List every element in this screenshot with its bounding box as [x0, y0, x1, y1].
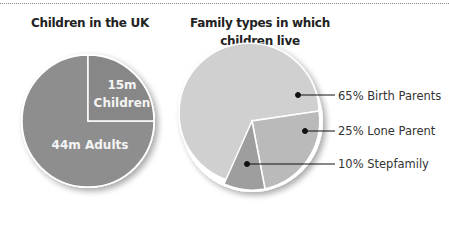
legend-birth-parents: 65% Birth Parents: [338, 89, 441, 103]
right-pie: [179, 43, 323, 192]
children-slice-label: 15m Children: [90, 76, 154, 112]
adults-slice-label: 44m Adults: [40, 136, 140, 154]
children-value: 15m: [90, 76, 154, 94]
children-label: Children: [90, 94, 154, 112]
left-pie: [21, 54, 155, 188]
legend-lone-parent: 25% Lone Parent: [338, 124, 435, 138]
legend-stepfamily: 10% Stepfamily: [338, 157, 429, 171]
